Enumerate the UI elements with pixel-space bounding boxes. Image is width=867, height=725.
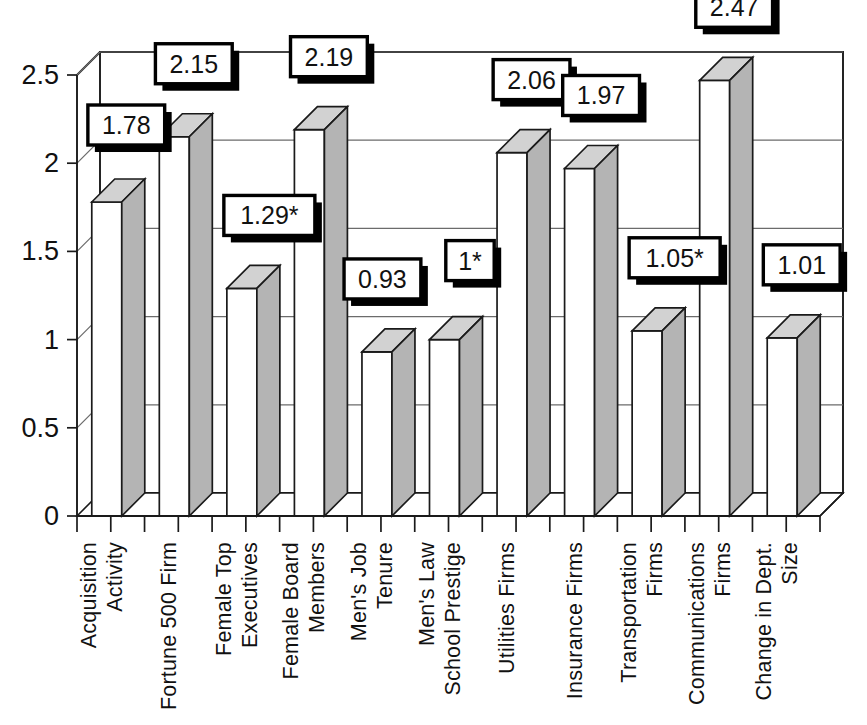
bar-3d — [767, 315, 820, 516]
bar-front-face — [700, 80, 730, 516]
callout-value-text: 0.93 — [358, 265, 407, 293]
value-callout: 0.93 — [344, 259, 428, 306]
bar-front-face — [294, 130, 324, 516]
y-axis-tick-labels: 00.511.522.5 — [21, 60, 59, 531]
gridline-depth-connector — [77, 52, 100, 75]
callout-value-text: 1.29* — [240, 201, 299, 229]
bar-3d — [362, 329, 415, 516]
bar-chart-canvas: 00.511.522.5 1.782.151.29*2.190.931*2.06… — [0, 0, 867, 725]
bar-side-face — [257, 265, 280, 516]
value-callout: 1.01 — [763, 245, 847, 292]
x-axis-category-label: Communications — [685, 542, 709, 705]
bar-front-face — [159, 137, 189, 516]
x-axis-category-label: Members — [305, 542, 329, 633]
bar-3d — [294, 107, 347, 516]
bar-side-face — [662, 308, 685, 516]
value-callout: 1.97 — [563, 75, 647, 122]
value-callout: 2.15 — [155, 44, 239, 91]
x-axis-category-label: Female Top — [212, 542, 236, 656]
y-axis-tick-label: 1 — [44, 325, 59, 355]
bar-front-face — [227, 288, 257, 516]
callout-value-text: 1.97 — [577, 81, 626, 109]
bar-side-face — [460, 317, 483, 516]
callout-value-text: 2.47 — [710, 0, 759, 21]
bar-side-face — [595, 145, 618, 516]
x-axis-category-label: Firms — [711, 542, 735, 597]
y-axis — [67, 75, 77, 516]
y-axis-tick-label: 2 — [44, 148, 59, 178]
callout-value-text: 1.05* — [645, 244, 704, 272]
bar-3d — [700, 57, 753, 516]
bar-3d — [632, 308, 685, 516]
x-axis-category-label: Executives — [238, 542, 262, 648]
y-axis-tick-label: 2.5 — [21, 60, 59, 90]
bar-side-face — [527, 130, 550, 516]
callout-value-text: 2.06 — [507, 66, 556, 94]
bar-front-face — [92, 202, 122, 516]
callout-value-text: 2.19 — [305, 43, 354, 71]
x-axis-category-label: Acquisition — [77, 542, 101, 648]
bar-side-face — [122, 179, 145, 516]
x-axis-category-label: School Prestige — [441, 542, 465, 696]
bar-front-face — [497, 153, 527, 516]
callout-value-text: 1.78 — [102, 111, 151, 139]
x-axis-category-labels: AcquisitionActivityFortune 500 FirmFemal… — [77, 542, 802, 710]
callout-value-text: 1.01 — [777, 251, 826, 279]
x-axis-category-label: Change in Dept. — [752, 542, 776, 700]
value-callout: 2.47 — [696, 0, 780, 34]
bar-front-face — [362, 352, 392, 516]
bar-side-face — [189, 114, 212, 516]
x-axis-category-label: Size — [778, 542, 802, 585]
chart-figure: 00.511.522.5 1.782.151.29*2.190.931*2.06… — [0, 0, 867, 725]
bar-3d — [92, 179, 145, 516]
value-callout: 1.29* — [224, 195, 322, 242]
bar-3d — [227, 265, 280, 516]
bar-front-face — [767, 338, 797, 516]
x-axis-category-label: Men's Job — [347, 542, 371, 641]
y-axis-tick-label: 0 — [44, 501, 59, 531]
bar-front-face — [430, 340, 460, 516]
bar-3d — [430, 317, 483, 516]
y-axis-tick-label: 1.5 — [21, 236, 59, 266]
bar-side-face — [730, 57, 753, 516]
x-axis-category-label: Transportation — [617, 542, 641, 683]
x-axis-category-label: Men's Law — [415, 542, 439, 646]
x-axis-category-label: Female Board — [279, 542, 303, 679]
value-callout: 1.78 — [88, 105, 172, 152]
bar-3d — [497, 130, 550, 516]
x-axis-category-label: Activity — [103, 542, 127, 612]
bar-front-face — [632, 331, 662, 516]
x-axis-category-label: Firms — [643, 542, 667, 597]
bar-3d — [565, 145, 618, 516]
x-axis-category-label: Fortune 500 Firm — [157, 542, 181, 710]
value-callout: 1.05* — [629, 238, 727, 285]
callout-value-text: 2.15 — [169, 50, 218, 78]
y-axis-tick-label: 0.5 — [21, 413, 59, 443]
value-callout: 1* — [446, 241, 501, 288]
bar-front-face — [565, 168, 595, 516]
bar-side-face — [324, 107, 347, 516]
bar-3d — [159, 114, 212, 516]
value-callout: 2.19 — [291, 37, 375, 84]
callout-value-text: 1* — [458, 247, 482, 275]
bar-side-face — [392, 329, 415, 516]
bar-side-face — [797, 315, 820, 516]
x-axis-category-label: Tenure — [373, 542, 397, 609]
x-axis-category-label: Insurance Firms — [563, 542, 587, 699]
x-axis-category-label: Utilities Firms — [495, 542, 519, 674]
